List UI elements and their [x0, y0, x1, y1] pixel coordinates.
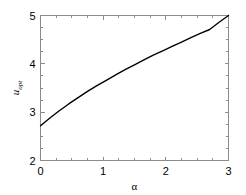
- x-tick-label: 1: [100, 165, 106, 177]
- plot-area-border: [41, 16, 229, 161]
- y-tick-label: 2: [29, 155, 35, 167]
- x-tick-label: 3: [225, 165, 231, 177]
- y-tick-label: 4: [29, 58, 35, 70]
- y-axis-title-subscript: opt: [16, 80, 24, 90]
- y-axis-title: uopt: [9, 80, 24, 96]
- y-axis-title-base: uopt: [9, 80, 24, 96]
- figure-container: 01232345αuopt: [0, 0, 246, 195]
- chart-plot: 01232345αuopt: [0, 0, 246, 195]
- x-tick-label: 2: [163, 165, 169, 177]
- x-tick-label: 0: [37, 165, 43, 177]
- y-tick-label: 5: [29, 10, 35, 22]
- y-tick-label: 3: [29, 106, 35, 118]
- x-axis-title: α: [132, 180, 138, 192]
